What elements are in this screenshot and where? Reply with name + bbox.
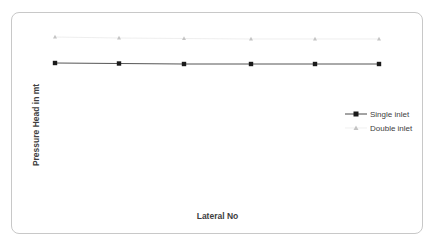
series-double-inlet: [53, 35, 381, 41]
data-point: [249, 62, 253, 66]
legend-label: Double inlet: [370, 124, 412, 133]
series-single-inlet: [53, 61, 381, 66]
square-marker-icon: [345, 110, 367, 118]
legend-label: Single inlet: [370, 110, 409, 119]
legend-item-double-inlet: Double inlet: [345, 121, 412, 135]
y-axis-label: Pressure Head in mt: [31, 65, 41, 185]
data-point: [117, 36, 121, 40]
data-point: [53, 61, 57, 65]
data-point: [313, 37, 317, 41]
triangle-marker-icon: [345, 124, 367, 132]
x-axis-label: Lateral No: [0, 211, 435, 221]
data-point: [249, 37, 253, 41]
data-point: [117, 61, 121, 65]
data-point: [182, 36, 186, 40]
legend-item-single-inlet: Single inlet: [345, 107, 412, 121]
data-point: [53, 35, 57, 39]
data-point: [377, 37, 381, 41]
legend: Single inlet Double inlet: [345, 107, 412, 135]
data-point: [313, 62, 317, 66]
data-point: [182, 62, 186, 66]
data-point: [377, 62, 381, 66]
